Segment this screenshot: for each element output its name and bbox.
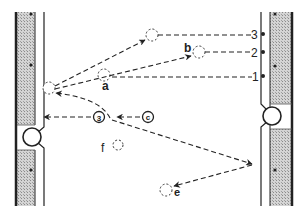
node-b (193, 46, 205, 58)
label-f: f (101, 141, 105, 155)
node-left-entry (43, 82, 55, 94)
right-pocket-circle (263, 107, 281, 125)
label-a: a (102, 79, 109, 93)
circled-c: c (143, 112, 154, 123)
right-wall-upper-hatch (270, 12, 292, 104)
arrow-to-right-wall (112, 120, 252, 164)
marker-label-1: 1 (252, 70, 259, 84)
node-top (146, 29, 158, 41)
dashed-nodes (43, 29, 205, 196)
dashed-paths (44, 35, 252, 186)
left-pocket-circle (23, 128, 41, 146)
svg-text:c: c (146, 113, 151, 122)
label-e: e (174, 186, 180, 198)
right-wall-lower-hatch (270, 129, 292, 206)
marker-dot-3 (261, 32, 265, 36)
marker-label-2: 2 (251, 46, 258, 60)
left-wall (16, 12, 44, 206)
node-e (160, 184, 172, 196)
arrow-entry-to-b (55, 56, 191, 89)
marker-dot-1 (261, 74, 265, 78)
label-b: b (184, 41, 191, 55)
arrow-to-e (174, 165, 252, 186)
marker-label-3: 3 (251, 28, 258, 42)
diagram-canvas: 3 c a b f e 3 2 1 (0, 0, 308, 216)
left-wall-lower-hatch (17, 150, 35, 206)
left-wall-upper-hatch (17, 12, 35, 125)
diagram-svg: 3 c a b f e 3 2 1 (0, 0, 308, 216)
svg-text:3: 3 (97, 114, 102, 123)
circled-3: 3 (94, 112, 105, 123)
marker-dot-2 (261, 50, 265, 54)
node-f (113, 140, 123, 150)
right-wall (261, 12, 292, 206)
